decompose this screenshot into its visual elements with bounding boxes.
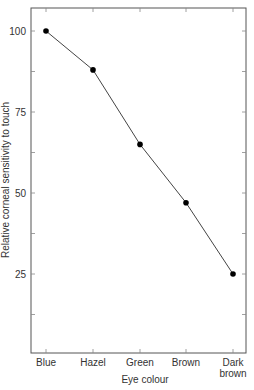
x-axis-title: Eye colour bbox=[121, 374, 169, 385]
axis-ticks bbox=[31, 8, 246, 353]
plot-frame bbox=[31, 8, 246, 353]
x-tick-label: Brown bbox=[172, 357, 200, 368]
line-chart: 25 50 75 100 Relative corneal sensitivit… bbox=[0, 0, 254, 390]
data-point bbox=[90, 67, 96, 73]
data-line bbox=[46, 31, 233, 274]
x-tick-label: Blue bbox=[36, 357, 56, 368]
x-tick-label: Hazel bbox=[80, 357, 106, 368]
y-axis-title: Relative corneal sensitivity to touch bbox=[0, 102, 11, 258]
data-point bbox=[43, 28, 49, 34]
x-tick-label: Green bbox=[126, 357, 154, 368]
data-point bbox=[183, 200, 189, 206]
y-tick-label: 100 bbox=[9, 26, 26, 37]
data-markers bbox=[43, 28, 236, 277]
y-tick-label: 50 bbox=[15, 188, 27, 199]
x-tick-label: Dark bbox=[222, 357, 244, 368]
data-point bbox=[230, 271, 236, 277]
data-point bbox=[137, 142, 143, 148]
y-tick-label: 25 bbox=[15, 269, 27, 280]
x-tick-label: brown bbox=[219, 368, 246, 379]
y-tick-label: 75 bbox=[15, 107, 27, 118]
